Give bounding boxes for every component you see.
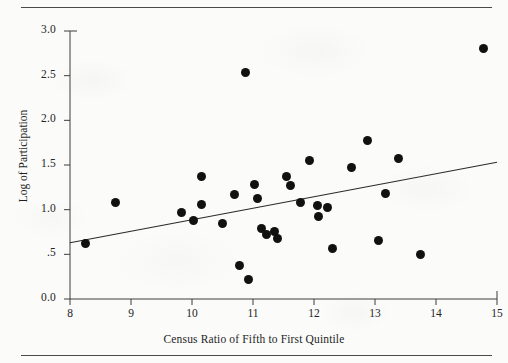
y-axis-title: Log of Participation [17, 86, 29, 226]
data-point [305, 156, 314, 165]
data-point [313, 201, 322, 210]
data-point [273, 234, 282, 243]
y-tick-label: 0.0 [16, 291, 56, 303]
cropped-page-header [120, 0, 300, 4]
scatter-plot: 0.0.51.01.52.02.53.0 89101112131415 Log … [0, 0, 508, 363]
x-axis-title: Census Ratio of Fifth to First Quintile [0, 333, 508, 345]
data-point [197, 200, 206, 209]
y-tick-label: 3.0 [16, 23, 56, 35]
axis-lines [70, 31, 497, 299]
data-point [328, 244, 337, 253]
data-point [111, 198, 120, 207]
x-tick-label: 10 [177, 307, 207, 319]
x-tick-label: 15 [482, 307, 508, 319]
x-tick-label: 14 [421, 307, 451, 319]
x-tick-label: 13 [360, 307, 390, 319]
tick-marks [64, 31, 497, 305]
x-tick-label: 11 [238, 307, 268, 319]
data-point [394, 154, 403, 163]
data-point [253, 194, 262, 203]
data-point [177, 208, 186, 217]
data-point [81, 239, 90, 248]
data-point [197, 172, 206, 181]
y-tick-label: 2.5 [16, 68, 56, 80]
x-tick-label: 9 [116, 307, 146, 319]
data-point [189, 216, 198, 225]
data-point [218, 219, 227, 228]
y-tick-label: .5 [16, 246, 56, 258]
x-tick-label: 8 [55, 307, 85, 319]
data-point [374, 236, 383, 245]
data-point [244, 275, 253, 284]
data-point [250, 180, 259, 189]
x-tick-label: 12 [299, 307, 329, 319]
